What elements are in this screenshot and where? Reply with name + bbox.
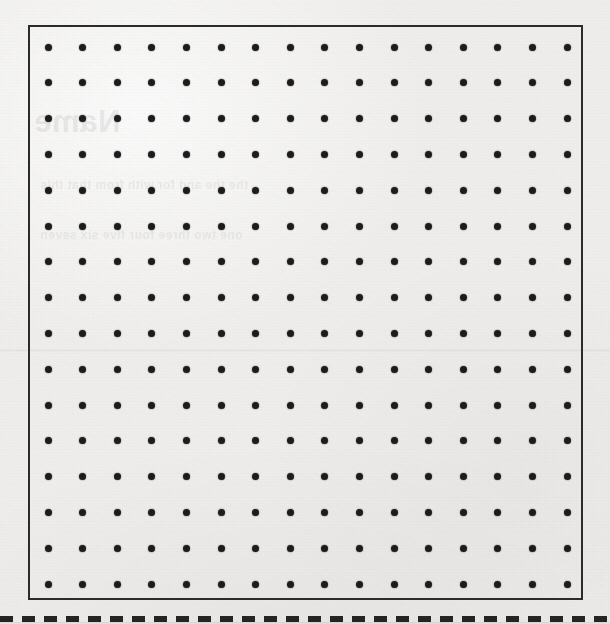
grid-dot[interactable]: [564, 581, 571, 588]
grid-dot[interactable]: [494, 402, 501, 409]
grid-dot[interactable]: [79, 115, 86, 122]
grid-dot[interactable]: [148, 509, 155, 516]
grid-dot[interactable]: [45, 437, 52, 444]
grid-dot[interactable]: [391, 545, 398, 552]
grid-dot[interactable]: [148, 258, 155, 265]
grid-dot[interactable]: [79, 402, 86, 409]
grid-dot[interactable]: [564, 115, 571, 122]
grid-dot[interactable]: [114, 223, 121, 230]
grid-dot[interactable]: [218, 509, 225, 516]
grid-dot[interactable]: [79, 44, 86, 51]
grid-dot[interactable]: [494, 366, 501, 373]
grid-dot[interactable]: [114, 44, 121, 51]
grid-dot[interactable]: [391, 115, 398, 122]
grid-dot[interactable]: [148, 151, 155, 158]
grid-dot[interactable]: [356, 258, 363, 265]
grid-dot[interactable]: [356, 366, 363, 373]
grid-dot[interactable]: [494, 473, 501, 480]
grid-dot[interactable]: [287, 330, 294, 337]
grid-dot[interactable]: [79, 437, 86, 444]
grid-dot[interactable]: [218, 115, 225, 122]
grid-dot[interactable]: [425, 545, 432, 552]
grid-dot[interactable]: [79, 509, 86, 516]
grid-dot[interactable]: [183, 258, 190, 265]
grid-dot[interactable]: [391, 187, 398, 194]
grid-dot[interactable]: [391, 402, 398, 409]
grid-dot[interactable]: [564, 258, 571, 265]
grid-dot[interactable]: [391, 366, 398, 373]
grid-dot[interactable]: [114, 258, 121, 265]
grid-dot[interactable]: [321, 294, 328, 301]
grid-dot[interactable]: [183, 79, 190, 86]
grid-dot[interactable]: [529, 44, 536, 51]
grid-dot[interactable]: [114, 79, 121, 86]
grid-dot[interactable]: [45, 79, 52, 86]
grid-dot[interactable]: [460, 79, 467, 86]
grid-dot[interactable]: [425, 44, 432, 51]
grid-dot[interactable]: [183, 44, 190, 51]
grid-dot[interactable]: [114, 115, 121, 122]
grid-dot[interactable]: [494, 437, 501, 444]
grid-dot[interactable]: [391, 473, 398, 480]
grid-dot[interactable]: [287, 294, 294, 301]
grid-dot[interactable]: [148, 330, 155, 337]
grid-dot[interactable]: [391, 581, 398, 588]
grid-dot[interactable]: [287, 223, 294, 230]
grid-dot[interactable]: [529, 258, 536, 265]
grid-dot[interactable]: [45, 223, 52, 230]
grid-dot[interactable]: [79, 473, 86, 480]
grid-dot[interactable]: [252, 545, 259, 552]
grid-dot[interactable]: [79, 330, 86, 337]
grid-dot[interactable]: [425, 258, 432, 265]
grid-dot[interactable]: [218, 258, 225, 265]
grid-dot[interactable]: [564, 545, 571, 552]
grid-dot[interactable]: [218, 151, 225, 158]
grid-dot[interactable]: [114, 437, 121, 444]
grid-dot[interactable]: [218, 545, 225, 552]
grid-dot[interactable]: [321, 402, 328, 409]
grid-dot[interactable]: [183, 545, 190, 552]
grid-dot[interactable]: [529, 581, 536, 588]
grid-dot[interactable]: [564, 223, 571, 230]
grid-dot[interactable]: [252, 437, 259, 444]
grid-dot[interactable]: [148, 581, 155, 588]
grid-dot[interactable]: [183, 151, 190, 158]
grid-dot[interactable]: [391, 44, 398, 51]
grid-dot[interactable]: [564, 79, 571, 86]
grid-dot[interactable]: [321, 437, 328, 444]
grid-dot[interactable]: [252, 509, 259, 516]
grid-dot[interactable]: [252, 223, 259, 230]
grid-dot[interactable]: [321, 258, 328, 265]
grid-dot[interactable]: [460, 402, 467, 409]
grid-dot[interactable]: [460, 545, 467, 552]
grid-dot[interactable]: [356, 509, 363, 516]
grid-dot[interactable]: [218, 44, 225, 51]
grid-dot[interactable]: [148, 187, 155, 194]
grid-dot[interactable]: [287, 473, 294, 480]
grid-dot[interactable]: [287, 115, 294, 122]
grid-dot[interactable]: [460, 437, 467, 444]
grid-dot[interactable]: [321, 187, 328, 194]
grid-dot[interactable]: [148, 44, 155, 51]
grid-dot[interactable]: [529, 402, 536, 409]
grid-dot[interactable]: [287, 509, 294, 516]
grid-dot[interactable]: [218, 187, 225, 194]
grid-dot[interactable]: [391, 79, 398, 86]
grid-dot[interactable]: [460, 330, 467, 337]
grid-dot[interactable]: [321, 473, 328, 480]
grid-dot[interactable]: [287, 581, 294, 588]
grid-dot[interactable]: [321, 366, 328, 373]
grid-dot[interactable]: [564, 187, 571, 194]
grid-dot[interactable]: [148, 79, 155, 86]
grid-dot[interactable]: [425, 402, 432, 409]
grid-dot[interactable]: [183, 581, 190, 588]
grid-dot[interactable]: [148, 545, 155, 552]
grid-dot[interactable]: [218, 223, 225, 230]
grid-dot[interactable]: [45, 366, 52, 373]
grid-dot[interactable]: [460, 366, 467, 373]
grid-dot[interactable]: [494, 115, 501, 122]
grid-dot[interactable]: [183, 115, 190, 122]
grid-dot[interactable]: [148, 437, 155, 444]
grid-dot[interactable]: [79, 581, 86, 588]
grid-dot[interactable]: [494, 545, 501, 552]
